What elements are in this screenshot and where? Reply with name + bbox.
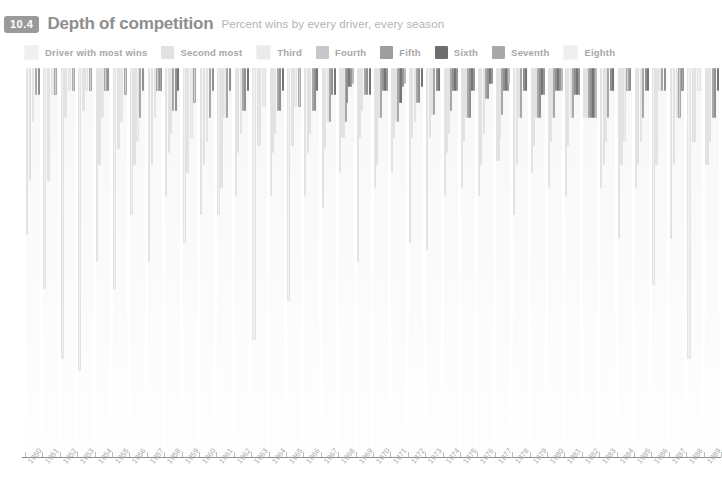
- legend-swatch: [316, 46, 329, 59]
- driver-bar: [159, 68, 161, 91]
- driver-bar: [54, 68, 57, 95]
- legend-label: Seventh: [511, 47, 549, 58]
- driver-bar: [120, 68, 123, 122]
- driver-bar: [421, 68, 423, 87]
- driver-bar: [262, 68, 266, 107]
- driver-bar: [324, 68, 326, 149]
- driver-bar: [426, 68, 428, 250]
- year-column: [443, 68, 460, 456]
- legend-item: Fourth: [316, 46, 366, 59]
- driver-bar: [298, 68, 301, 107]
- year-column: [338, 68, 355, 456]
- legend-swatch: [24, 45, 39, 60]
- year-column: [164, 68, 181, 456]
- driver-bar: [47, 68, 50, 181]
- figure-number-badge: 10.4: [4, 16, 39, 33]
- year-column: [373, 68, 390, 456]
- year-column: [25, 68, 42, 456]
- year-column-backdrop: [583, 68, 597, 456]
- year-column: [182, 68, 199, 456]
- x-tick: [25, 452, 26, 457]
- driver-bar: [151, 68, 153, 165]
- year-column: [216, 68, 233, 456]
- driver-bar: [38, 68, 40, 95]
- year-column: [234, 68, 251, 456]
- driver-bar: [561, 68, 563, 91]
- driver-bar: [206, 68, 208, 142]
- driver-bar: [72, 68, 75, 91]
- driver-bar: [209, 68, 211, 118]
- chart-legend: Driver with most winsSecond mostThirdFou…: [24, 44, 629, 60]
- driver-bar: [177, 68, 179, 91]
- page-subtitle: Percent wins by every driver, every seas…: [221, 18, 444, 31]
- year-column: [42, 68, 59, 456]
- driver-bar: [334, 68, 336, 95]
- year-column: [95, 68, 112, 456]
- driver-bar: [697, 68, 701, 91]
- legend-label: Driver with most wins: [45, 47, 147, 58]
- year-column: [129, 68, 146, 456]
- driver-bar: [35, 68, 37, 95]
- driver-bar: [89, 68, 92, 91]
- driver-bar: [257, 68, 261, 146]
- driver-bar: [193, 68, 196, 103]
- driver-bar: [404, 68, 406, 84]
- driver-bar: [473, 68, 475, 91]
- legend-swatch: [492, 46, 505, 59]
- legend-item: Third: [256, 45, 302, 60]
- driver-bar: [78, 68, 81, 371]
- year-column: [477, 68, 494, 456]
- driver-bar: [294, 68, 297, 107]
- legend-item: Fifth: [380, 46, 421, 59]
- year-column: [704, 68, 721, 456]
- driver-bar: [124, 68, 127, 95]
- year-column: [530, 68, 547, 456]
- year-column: [425, 68, 442, 456]
- year-column: [321, 68, 338, 456]
- driver-bar: [203, 68, 205, 165]
- legend-label: Third: [277, 47, 302, 58]
- year-column: [651, 68, 668, 456]
- driver-bar: [578, 68, 580, 95]
- year-column: [112, 68, 129, 456]
- driver-bar: [352, 68, 354, 84]
- year-column: [390, 68, 407, 456]
- legend-item: Eighth: [563, 45, 615, 60]
- driver-bar: [687, 68, 691, 359]
- driver-bar: [229, 68, 231, 91]
- year-column: [617, 68, 634, 456]
- year-column: [251, 68, 268, 456]
- driver-bar: [186, 68, 189, 173]
- year-column: [564, 68, 581, 456]
- driver-bar: [714, 68, 716, 118]
- page-title: Depth of competition: [47, 14, 213, 34]
- legend-swatch: [435, 46, 448, 59]
- driver-bar: [595, 68, 597, 118]
- year-column: [495, 68, 512, 456]
- year-column: [512, 68, 529, 456]
- driver-bar: [456, 68, 458, 91]
- driver-bar: [309, 68, 311, 134]
- driver-bar: [411, 68, 413, 138]
- year-column: [408, 68, 425, 456]
- plot-area: [25, 68, 721, 456]
- legend-swatch: [256, 45, 271, 60]
- year-column: [634, 68, 651, 456]
- driver-bar: [647, 68, 649, 91]
- year-column: [303, 68, 320, 456]
- x-axis-labels: 1950195119521953195419551956195719581959…: [0, 458, 721, 494]
- legend-item: Driver with most wins: [24, 45, 147, 60]
- legend-label: Fourth: [335, 47, 366, 58]
- year-column: [199, 68, 216, 456]
- legend-swatch: [161, 46, 174, 59]
- driver-bar: [279, 68, 281, 111]
- driver-bar: [612, 68, 614, 91]
- driver-bar: [491, 68, 493, 84]
- driver-bar: [113, 68, 116, 289]
- year-column: [269, 68, 286, 456]
- year-column: [77, 68, 94, 456]
- year-column: [582, 68, 599, 456]
- driver-bar: [29, 68, 31, 181]
- driver-bar: [369, 68, 371, 95]
